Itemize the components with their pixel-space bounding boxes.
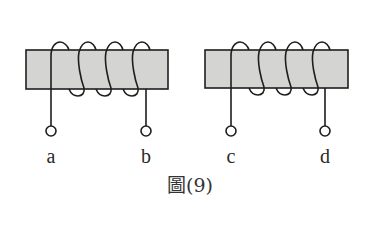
terminal-d	[320, 126, 330, 136]
terminal-b	[141, 126, 151, 136]
terminal-a	[46, 126, 56, 136]
terminal-label-a: a	[47, 146, 56, 166]
terminal-label-d: d	[320, 146, 330, 166]
terminal-label-b: b	[141, 146, 151, 166]
terminal-c	[226, 126, 236, 136]
right-core	[205, 50, 348, 88]
left-coil	[26, 42, 168, 136]
left-core	[26, 50, 168, 89]
terminal-label-c: c	[227, 146, 236, 166]
figure-caption: 圖(9)	[167, 176, 213, 195]
right-coil	[205, 42, 348, 136]
